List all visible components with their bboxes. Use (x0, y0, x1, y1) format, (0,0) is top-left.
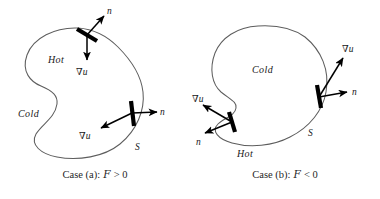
caption-case-a: Case (a): F > 0 (0, 168, 190, 180)
caption-prefix: Case (b): (252, 169, 290, 180)
caption-case-b: Case (b): F < 0 (190, 168, 380, 180)
normal-vector-right (319, 92, 347, 97)
normal-label-top: n (107, 6, 112, 16)
gradient-vector-right (319, 58, 343, 97)
gradient-label-right: ∇u (79, 131, 91, 141)
flux-symbol: F (293, 168, 301, 180)
normal-label-right: n (160, 107, 165, 117)
caption-prefix: Case (a): (63, 169, 101, 180)
surface-label: S (308, 128, 313, 138)
caption-relation: > 0 (114, 169, 128, 180)
gradient-label-left: ∇u (192, 94, 204, 104)
region-label-outer: Hot (236, 148, 253, 159)
normal-vector-right (132, 112, 157, 113)
gradient-label-right: ∇u (342, 44, 354, 54)
gradient-vector-right (101, 113, 132, 128)
gradient-label-top: ∇u (76, 67, 88, 77)
normal-label-left: n (196, 137, 201, 147)
region-label-outer: Cold (18, 108, 40, 119)
region-label-inner: Cold (252, 64, 274, 75)
normal-label-right: n (352, 87, 357, 97)
caption-relation: < 0 (304, 169, 318, 180)
heat-flux-figure: n ∇u n ∇u Hot Cold S ∇u n ∇u (0, 0, 380, 199)
region-label-inner: Hot (47, 54, 64, 65)
surface-label: S (135, 142, 140, 152)
flux-symbol: F (103, 168, 111, 180)
